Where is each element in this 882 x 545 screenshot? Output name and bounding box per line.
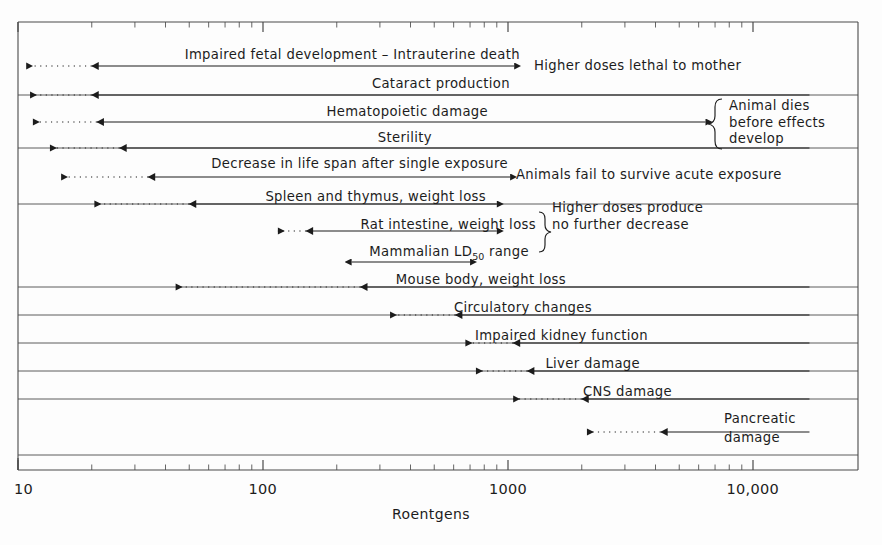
row-label-9: Circulatory changes [454, 300, 592, 315]
row-label-7: Mammalian LD50 range [369, 244, 529, 264]
radiation-effects-chart: Impaired fetal development – Intrauterin… [0, 0, 882, 545]
annotation-animals-fail: Animals fail to survive acute exposure [516, 167, 782, 182]
axis-ticks-top [18, 22, 753, 32]
ld50-suffix: range [484, 244, 529, 259]
axis-title-roentgens: Roentgens [392, 506, 470, 522]
axis-tick-label-10: 10 [14, 481, 33, 497]
row-label-10: Impaired kidney function [475, 328, 648, 343]
row-label-3: Sterility [378, 130, 432, 145]
animal-dies-line2: before effects [729, 115, 825, 132]
higher-doses-produce-line2: no further decrease [552, 217, 703, 234]
higher-doses-produce-line1: Higher doses produce [552, 200, 703, 217]
row-label-4: Decrease in life span after single expos… [211, 156, 508, 171]
brace-animal-dies [708, 99, 722, 149]
animal-dies-line1: Animal dies [729, 98, 825, 115]
brace-higher-doses [539, 212, 551, 252]
row-label-12: CNS damage [583, 384, 672, 399]
annotation-higher-doses-lethal: Higher doses lethal to mother [534, 58, 741, 73]
annotation-animal-dies: Animal dies before effects develop [729, 98, 825, 148]
row-label-5: Spleen and thymus, weight loss [265, 189, 486, 204]
row-label-11: Liver damage [545, 356, 640, 371]
row-label-13-line1: Pancreatic [724, 411, 796, 426]
row-label-8: Mouse body, weight loss [396, 272, 566, 287]
row-label-6: Rat intestine, weight loss [361, 217, 536, 232]
row-label-1: Cataract production [372, 76, 510, 91]
axis-tick-label-10000: 10,000 [727, 481, 780, 497]
annotation-higher-doses-produce: Higher doses produce no further decrease [552, 200, 703, 233]
axis-tick-label-100: 100 [249, 481, 278, 497]
axis-ticks-bottom [18, 458, 753, 470]
row-label-2: Hematopoietic damage [326, 104, 488, 119]
row-label-13-line2: damage [724, 430, 780, 445]
ld50-prefix: Mammalian LD [369, 244, 472, 259]
axis-tick-label-1000: 1000 [489, 481, 527, 497]
animal-dies-line3: develop [729, 131, 825, 148]
row-label-0: Impaired fetal development – Intrauterin… [185, 47, 520, 62]
ld50-subscript: 50 [472, 251, 484, 262]
